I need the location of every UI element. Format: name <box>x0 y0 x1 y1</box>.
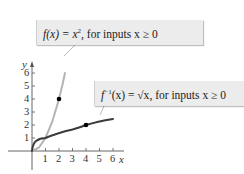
y-tick-label: 6 <box>24 68 29 78</box>
x-axis-label: x <box>119 153 124 165</box>
finv-label-domain: , for inputs x ≥ 0 <box>149 89 226 101</box>
x-tick-label: 2 <box>56 154 61 164</box>
f-label-lhs: f(x) = x <box>43 28 78 40</box>
y-tick-label: 5 <box>24 81 29 91</box>
x-tick-label: 1 <box>43 154 48 164</box>
y-tick-label: 1 <box>24 133 29 143</box>
x-tick-label: 4 <box>83 154 88 164</box>
f-inverse-function-label: f−1(x) = √x, for inputs x ≥ 0 <box>94 81 244 106</box>
y-tick-label: 2 <box>24 120 29 130</box>
sqrt-curve <box>32 119 113 151</box>
y-axis-arrow-icon <box>30 61 34 67</box>
finv-label-exponent: −1 <box>104 88 111 96</box>
inverse-function-diagram: y x 1 2 3 4 5 6 1 2 3 4 5 6 f(x) = x2, f… <box>0 0 244 174</box>
x-tick-label: 5 <box>97 154 102 164</box>
point-4-2 <box>84 123 89 128</box>
x-tick-label: 3 <box>70 154 75 164</box>
f-label-domain: , for inputs x ≥ 0 <box>81 28 158 40</box>
point-2-4 <box>57 97 62 102</box>
f-function-label: f(x) = x2, for inputs x ≥ 0 <box>36 20 203 45</box>
x-tick-label: 6 <box>110 154 115 164</box>
y-tick-label: 3 <box>24 107 29 117</box>
y-tick-label: 4 <box>24 94 29 104</box>
finv-label-rhs: (x) = √x <box>112 89 150 101</box>
